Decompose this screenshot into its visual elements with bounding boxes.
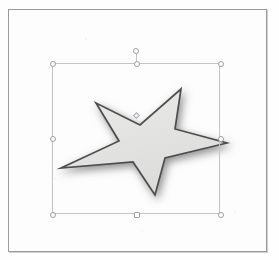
drawing-canvas[interactable] <box>9 10 266 251</box>
handle-bottom-right[interactable] <box>218 212 224 218</box>
selection-bounding-box[interactable] <box>52 63 220 214</box>
handle-top-right[interactable] <box>218 61 224 67</box>
screenshot-root <box>0 0 279 260</box>
handle-top-left[interactable] <box>50 61 56 67</box>
rotation-handle[interactable] <box>133 48 139 54</box>
handle-bottom-left[interactable] <box>50 212 56 218</box>
canvas-frame <box>8 9 267 252</box>
handle-middle-right[interactable] <box>218 136 224 142</box>
handle-top-center[interactable] <box>134 61 140 67</box>
selection-overlay <box>9 10 266 251</box>
handle-bottom-center[interactable] <box>134 212 140 218</box>
handle-middle-left[interactable] <box>50 136 56 142</box>
